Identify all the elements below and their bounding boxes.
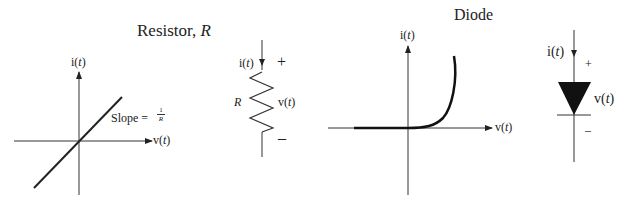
label-text: ) — [411, 28, 415, 42]
diagram-graphics — [0, 0, 632, 204]
diode-iv-curve — [354, 56, 455, 128]
diode-minus-sign: – — [585, 124, 591, 136]
label-text: ) — [166, 133, 170, 147]
resistor-title-text: Resistor, — [137, 21, 201, 40]
label-text: ) — [610, 91, 615, 106]
slope-fraction: 1 R — [157, 106, 165, 123]
resistor-minus-sign: – — [278, 130, 286, 146]
slope-denominator: R — [157, 115, 165, 123]
resistor-zigzag — [250, 72, 273, 132]
diode-triangle — [558, 82, 591, 115]
diode-current-label: i(t) — [547, 45, 564, 59]
resistor-voltage-label: v(t) — [278, 96, 295, 108]
resistor-diode-iv-diagram: Resistor, R i(t) v(t) Slope = 1 R i(t) +… — [0, 0, 632, 204]
diode-title: Diode — [454, 7, 493, 23]
resistor-r-label: R — [234, 96, 241, 108]
label-text: ) — [82, 55, 86, 69]
resistor-plus-sign: + — [277, 54, 286, 70]
diode-iv-graph — [328, 46, 492, 195]
current-arrow-icon — [259, 59, 265, 66]
label-text: v( — [153, 133, 163, 147]
label-text: ) — [291, 95, 295, 109]
label-text: v( — [278, 95, 288, 109]
resistor-current-label: i(t) — [239, 57, 254, 69]
resistor-y-axis-label: i(t) — [71, 56, 86, 68]
resistor-title-symbol: R — [201, 21, 211, 40]
resistor-x-axis-label: v(t) — [153, 134, 170, 146]
label-text: i( — [547, 44, 556, 59]
diode-y-axis-label: i(t) — [400, 29, 415, 41]
label-text: ) — [508, 120, 512, 134]
diode-current-arrow-icon — [571, 50, 577, 57]
diode-x-axis-label: v(t) — [495, 121, 512, 133]
slope-label: Slope = — [111, 112, 148, 124]
label-text: ) — [559, 44, 564, 59]
diode-plus-sign: + — [585, 58, 592, 70]
label-text: v( — [594, 91, 606, 106]
resistor-iv-graph — [14, 72, 152, 195]
diode-voltage-label: v(t) — [594, 92, 614, 106]
label-text: v( — [495, 120, 505, 134]
slope-text: Slope = — [111, 111, 148, 125]
label-text: ) — [250, 56, 254, 70]
resistor-iv-line — [34, 97, 122, 188]
slope-numerator: 1 — [157, 106, 165, 115]
resistor-title: Resistor, R — [137, 22, 211, 39]
